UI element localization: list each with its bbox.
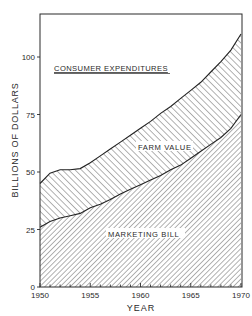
- chart: 0255075100 19501955196019651970 BILLIONS…: [0, 0, 252, 316]
- farm-value-label: FARM VALUE: [138, 143, 192, 152]
- x-tick-label: 1970: [232, 291, 250, 300]
- x-tick-label: 1955: [81, 291, 99, 300]
- x-tick-label: 1965: [182, 291, 200, 300]
- y-tick-label: 50: [26, 168, 35, 177]
- x-axis-label: YEAR: [127, 303, 156, 313]
- y-tick-label: 75: [26, 111, 35, 120]
- y-tick-label: 25: [26, 226, 35, 235]
- y-axis-ticks: 0255075100: [22, 53, 40, 292]
- x-tick-label: 1950: [31, 291, 49, 300]
- y-axis-label: BILLIONS OF DOLLARS: [10, 82, 20, 197]
- y-tick-label: 100: [22, 53, 36, 62]
- marketing-bill-label: MARKETING BILL: [108, 230, 179, 239]
- x-tick-label: 1960: [132, 291, 150, 300]
- consumer-expenditures-label: CONSUMER EXPENDITURES: [54, 64, 168, 73]
